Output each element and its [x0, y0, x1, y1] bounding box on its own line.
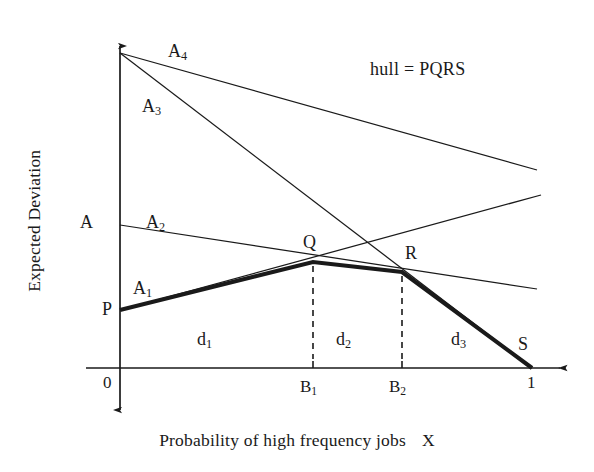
vertex-label-p: P — [102, 300, 112, 318]
curve-label-a3: A3 — [142, 97, 161, 115]
x-axis-tick-one: 1 — [527, 374, 536, 391]
x-axis-tick-b2: B2 — [389, 378, 406, 395]
convex-hull-path — [120, 262, 532, 368]
region-label-d2: d2 — [336, 330, 351, 348]
curve-a4 — [120, 53, 537, 170]
region-label-d3: d3 — [451, 330, 466, 348]
curve-label-a2: A2 — [146, 213, 165, 231]
x-axis-title: Probability of high frequency jobsX — [0, 432, 594, 450]
x-axis-variable: X — [422, 430, 435, 450]
vertex-label-r: R — [405, 244, 417, 262]
x-axis-tick-b1: B1 — [300, 378, 317, 395]
hull-annotation: hull = PQRS — [370, 60, 465, 78]
plot-canvas — [0, 0, 594, 472]
x-axis-tick-origin: 0 — [103, 374, 112, 391]
y-axis-intercept-label: A — [80, 213, 93, 231]
curve-label-a4: A4 — [168, 42, 187, 60]
x-axis-title-main: Probability of high frequency jobs — [159, 430, 406, 450]
expected-deviation-convex-hull-figure: Expected Deviation Probability of high f… — [0, 0, 594, 472]
y-axis-title: Expected Deviation — [26, 101, 44, 341]
region-label-d1: d1 — [197, 330, 212, 348]
curve-label-a1: A1 — [133, 279, 152, 297]
vertex-label-s: S — [518, 335, 528, 353]
curve-a2 — [120, 225, 537, 289]
vertex-label-q: Q — [303, 233, 316, 251]
